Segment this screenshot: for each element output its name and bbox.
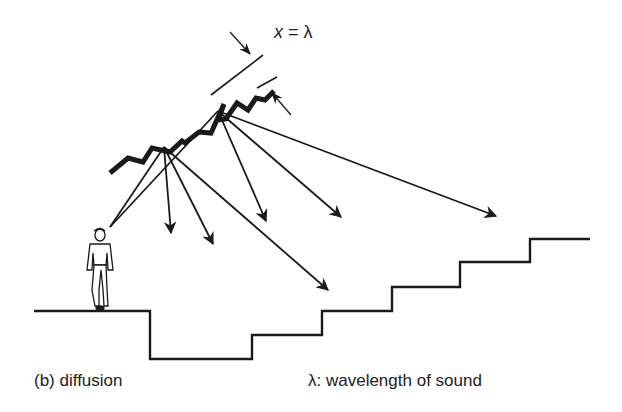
legend-note: λ: wavelength of sound (308, 371, 482, 391)
scattered-rays-2 (218, 111, 496, 221)
stepped-floor (34, 239, 590, 359)
diffusion-diagram (0, 0, 622, 412)
equation-value: λ (304, 22, 313, 42)
panel-label: (b) diffusion (34, 371, 123, 391)
diffuser-surface (110, 91, 274, 173)
equation-operator: = (288, 22, 299, 42)
scattered-rays-1 (164, 147, 328, 290)
equation-variable: x (274, 22, 283, 42)
equation-label: x = λ (274, 22, 313, 43)
incident-rays (110, 111, 218, 227)
listener-figure (87, 229, 113, 311)
